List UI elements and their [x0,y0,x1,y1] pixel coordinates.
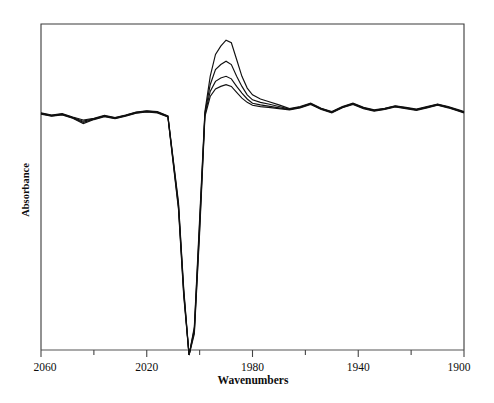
x-tick-label: 1900 [448,361,471,373]
spectrum-trace [41,40,464,355]
spectrum-trace [41,85,464,355]
spectrum-trace [41,76,464,355]
chart-canvas: 20602020198019401900 Wavenumbers Absorba… [0,0,494,403]
y-axis-title: Absorbance [20,163,31,217]
x-tick-label: 1980 [241,361,264,373]
spectrum-figure: 20602020198019401900 Wavenumbers Absorba… [0,0,494,403]
x-tick-label: 2020 [135,361,158,373]
x-axis-ticks [41,350,464,357]
spectra-traces [41,40,464,355]
x-axis-title: Wavenumbers [218,374,289,386]
x-axis-tick-labels: 20602020198019401900 [34,361,471,373]
x-tick-label: 1940 [347,361,370,373]
plot-frame [41,24,464,350]
x-tick-label: 2060 [34,361,57,373]
